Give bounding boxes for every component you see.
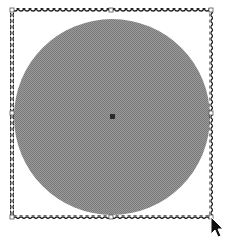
resize-handle-top-right[interactable]	[209, 8, 213, 12]
resize-handle-top-middle[interactable]	[109, 8, 113, 12]
resize-handle-middle-right[interactable]	[209, 111, 213, 115]
resize-handle-top-left[interactable]	[10, 8, 14, 12]
resize-handle-middle-left[interactable]	[10, 111, 14, 115]
center-point-marker[interactable]	[110, 114, 115, 119]
drawing-canvas[interactable]	[0, 0, 227, 239]
resize-handle-bottom-left[interactable]	[10, 215, 14, 219]
mouse-pointer-icon	[211, 217, 223, 237]
resize-handle-bottom-middle[interactable]	[109, 215, 113, 219]
canvas-svg[interactable]	[0, 0, 227, 239]
